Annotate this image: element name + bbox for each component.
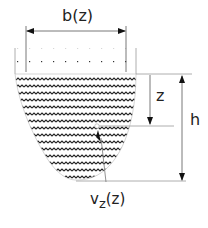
velocity-symbol: v: [90, 190, 99, 208]
velocity-argument: (z): [106, 190, 126, 208]
freeboard-region: [15, 48, 136, 74]
velocity-label: vz(z): [90, 190, 125, 211]
depth-label: z: [156, 86, 164, 105]
velocity-subscript: z: [99, 196, 106, 211]
height-label: h: [190, 110, 200, 129]
water-cross-section: [15, 74, 136, 180]
width-label: b(z): [62, 6, 93, 25]
